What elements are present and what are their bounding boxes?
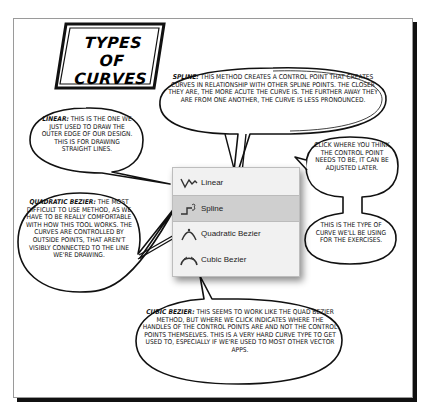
page-title: TYPES OF CURVES xyxy=(70,34,154,88)
menu-item-linear[interactable]: Linear xyxy=(173,170,299,195)
quadratic-bezier-icon xyxy=(179,227,199,241)
linear-bubble-text: LINEAR: THIS IS THE ONE WE JUST USED TO … xyxy=(40,116,134,154)
cubic-bezier-icon xyxy=(179,253,199,267)
spline-curve-icon xyxy=(179,202,199,216)
cubic-bubble-text: CUBIC BEZIER: THIS SEEMS TO WORK LIKE TH… xyxy=(142,309,338,355)
menu-item-spline[interactable]: Spline xyxy=(173,195,299,222)
menu-item-cubic-bezier[interactable]: Cubic Bezier xyxy=(173,247,299,272)
spline-bubble-text: SPLINE: THIS METHOD CREATES A CONTROL PO… xyxy=(166,74,380,104)
exercises-bubble-text: THIS IS THE TYPE OF CURVE WE'LL BE USING… xyxy=(312,222,390,245)
title-box: TYPES OF CURVES xyxy=(54,22,164,88)
click-where-bubble-text: CLICK WHERE YOU THINK THE CONTROL POINT … xyxy=(312,142,392,172)
quadratic-bubble-text: QUADRATIC BEZIER: THE MOST DIFFICULT TO … xyxy=(26,199,132,260)
curve-type-menu: Linear Spline Quadratic Bezier Cubic Bez… xyxy=(172,167,300,277)
linear-curve-icon xyxy=(179,176,199,190)
menu-item-quadratic-bezier[interactable]: Quadratic Bezier xyxy=(173,221,299,246)
